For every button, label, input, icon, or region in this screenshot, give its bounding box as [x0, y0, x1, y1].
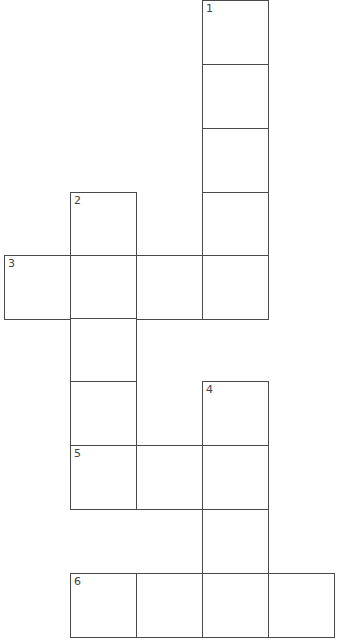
- crossword-cell[interactable]: 1: [202, 0, 269, 65]
- clue-number: 4: [206, 384, 213, 395]
- crossword-cell[interactable]: 2: [70, 192, 137, 257]
- crossword-cell[interactable]: 6: [70, 573, 137, 638]
- crossword-cell[interactable]: [136, 573, 203, 638]
- crossword-cell[interactable]: 3: [4, 255, 71, 320]
- crossword-cell[interactable]: 5: [70, 445, 137, 510]
- clue-number: 5: [74, 448, 81, 459]
- crossword-cell[interactable]: [202, 255, 269, 320]
- crossword-cell[interactable]: [202, 445, 269, 510]
- crossword-cell[interactable]: [202, 509, 269, 574]
- crossword-cell[interactable]: [136, 445, 203, 510]
- clue-number: 1: [206, 3, 213, 14]
- crossword-cell[interactable]: [202, 64, 269, 129]
- crossword-grid: 123456: [0, 0, 346, 643]
- crossword-cell[interactable]: [136, 255, 203, 320]
- clue-number: 2: [74, 195, 81, 206]
- crossword-cell[interactable]: [202, 573, 269, 638]
- crossword-cell[interactable]: [268, 573, 335, 638]
- crossword-cell[interactable]: [202, 192, 269, 257]
- clue-number: 6: [74, 576, 81, 587]
- crossword-cell[interactable]: [70, 255, 137, 320]
- clue-number: 3: [8, 258, 15, 269]
- crossword-cell[interactable]: 4: [202, 381, 269, 446]
- crossword-cell[interactable]: [70, 381, 137, 446]
- crossword-cell[interactable]: [70, 318, 137, 383]
- crossword-cell[interactable]: [202, 128, 269, 193]
